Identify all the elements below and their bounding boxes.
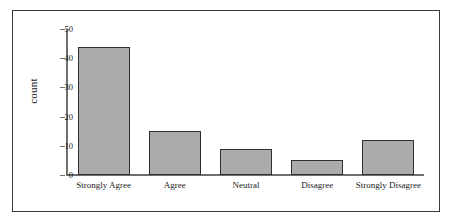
bar xyxy=(362,140,414,175)
bar xyxy=(78,47,130,175)
y-axis-tick-mark xyxy=(60,175,65,176)
x-axis-tick-label: Strongly Agree xyxy=(68,179,139,191)
bar xyxy=(220,149,272,175)
y-axis-tick-mark xyxy=(60,58,65,59)
bar xyxy=(149,131,201,175)
x-axis-tick-label: Neutral xyxy=(210,179,281,191)
plot-area: count 01020304050 Strongly AgreeAgreeNeu… xyxy=(13,11,441,213)
y-axis-title: count xyxy=(27,61,39,121)
y-axis-tick-mark xyxy=(60,146,65,147)
chart-frame: count 01020304050 Strongly AgreeAgreeNeu… xyxy=(12,10,440,212)
y-axis-tick-mark xyxy=(60,117,65,118)
chart-screenshot: count 01020304050 Strongly AgreeAgreeNeu… xyxy=(0,0,457,223)
bars-layer xyxy=(68,29,424,175)
x-axis-tick-label: Disagree xyxy=(282,179,353,191)
y-axis-tick-mark xyxy=(60,87,65,88)
x-axis-tick-label: Strongly Disagree xyxy=(353,179,424,191)
x-axis-tick-label: Agree xyxy=(139,179,210,191)
y-axis-tick-mark xyxy=(60,29,65,30)
bar xyxy=(291,160,343,175)
